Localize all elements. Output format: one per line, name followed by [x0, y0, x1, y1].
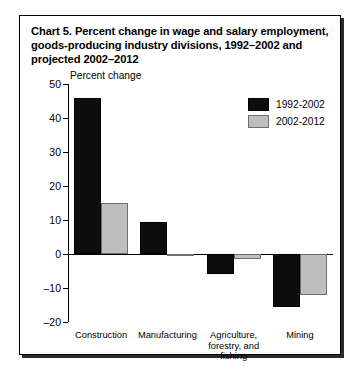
- y-tick-label: 10: [49, 214, 61, 226]
- bar-group: [68, 84, 333, 322]
- y-tick-label: 40: [49, 112, 61, 124]
- y-tick-label: –10: [43, 282, 61, 294]
- figure-root: Chart 5. Percent change in wage and sala…: [0, 0, 350, 375]
- y-tick-label: –20: [43, 316, 61, 328]
- y-tick-label: 50: [49, 78, 61, 90]
- plot-area: 50403020100–10–20 ConstructionManufactur…: [68, 84, 333, 322]
- chart-frame: Chart 5. Percent change in wage and sala…: [19, 15, 341, 355]
- y-tick-label: 30: [49, 146, 61, 158]
- chart-title: Chart 5. Percent change in wage and sala…: [31, 24, 331, 67]
- chart-title-number: Chart 5.: [31, 25, 72, 37]
- x-category-label: Mining: [261, 330, 339, 341]
- bar-0: [273, 254, 300, 307]
- y-tick-label: 20: [49, 180, 61, 192]
- y-tick-mark: [63, 322, 68, 323]
- bar-1: [300, 254, 327, 295]
- chart-title-text: Percent change in wage and salary employ…: [31, 25, 328, 65]
- y-axis-title: Percent change: [70, 70, 141, 81]
- y-tick-label: 0: [55, 248, 61, 260]
